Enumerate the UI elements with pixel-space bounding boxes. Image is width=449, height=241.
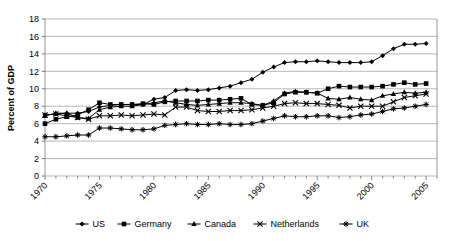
legend-marker-icon [343, 221, 348, 226]
y-tick-label: 4 [34, 136, 39, 146]
y-axis-title: Percent of GDP [6, 65, 16, 131]
data-point-marker [162, 123, 167, 128]
data-point-marker [108, 125, 113, 130]
legend-label: Germany [135, 219, 173, 229]
data-point-marker [424, 81, 429, 86]
data-point-marker [75, 132, 80, 137]
data-point-marker [336, 115, 341, 120]
y-tick-label: 12 [29, 67, 39, 77]
data-point-marker [53, 134, 58, 139]
data-point-marker [129, 127, 134, 132]
data-point-marker [293, 114, 298, 119]
data-point-marker [206, 122, 211, 127]
data-point-marker [64, 133, 69, 138]
data-point-marker [184, 121, 189, 126]
data-point-marker [380, 84, 385, 89]
legend-label: Netherlands [271, 219, 320, 229]
data-point-marker [326, 86, 331, 91]
data-point-marker [402, 105, 407, 110]
data-point-marker [347, 114, 352, 119]
line-chart: 024681012141618 197019751980198519901995… [0, 0, 449, 241]
y-tick-label: 8 [34, 101, 39, 111]
data-point-marker [97, 100, 102, 105]
data-point-marker [348, 85, 353, 90]
legend-label: UK [357, 219, 370, 229]
legend-label: Canada [205, 219, 237, 229]
data-point-marker [86, 132, 91, 137]
data-point-marker [43, 121, 48, 126]
y-tick-label: 6 [34, 119, 39, 129]
data-point-marker [217, 121, 222, 126]
data-point-marker [304, 114, 309, 119]
data-point-marker [337, 84, 342, 89]
data-point-marker [358, 112, 363, 117]
data-point-marker [369, 111, 374, 116]
data-point-marker [413, 82, 418, 87]
data-point-marker [402, 80, 407, 85]
data-point-marker [151, 126, 156, 131]
y-tick-label: 0 [34, 171, 39, 181]
data-point-marker [238, 122, 243, 127]
data-point-marker [391, 106, 396, 111]
y-tick-label: 18 [29, 14, 39, 24]
y-tick-label: 10 [29, 84, 39, 94]
data-point-marker [249, 121, 254, 126]
data-point-marker [423, 102, 428, 107]
legend-marker-icon [122, 222, 127, 227]
data-point-marker [325, 113, 330, 118]
data-point-marker [271, 116, 276, 121]
data-point-marker [391, 82, 396, 87]
data-point-marker [140, 127, 145, 132]
y-tick-label: 16 [29, 32, 39, 42]
data-point-marker [282, 113, 287, 118]
legend-label: US [93, 219, 106, 229]
data-point-marker [119, 126, 124, 131]
y-tick-label: 14 [29, 49, 39, 59]
data-point-marker [260, 118, 265, 123]
y-tick-label: 2 [34, 154, 39, 164]
data-point-marker [54, 117, 59, 122]
chart-container: 024681012141618 197019751980198519901995… [0, 0, 449, 241]
data-point-marker [227, 122, 232, 127]
data-point-marker [358, 85, 363, 90]
data-point-marker [315, 113, 320, 118]
data-point-marker [195, 122, 200, 127]
data-point-marker [369, 85, 374, 90]
data-point-marker [413, 104, 418, 109]
data-point-marker [173, 122, 178, 127]
data-point-marker [380, 109, 385, 114]
data-point-marker [42, 134, 47, 139]
data-point-marker [86, 107, 91, 112]
data-point-marker [97, 125, 102, 130]
